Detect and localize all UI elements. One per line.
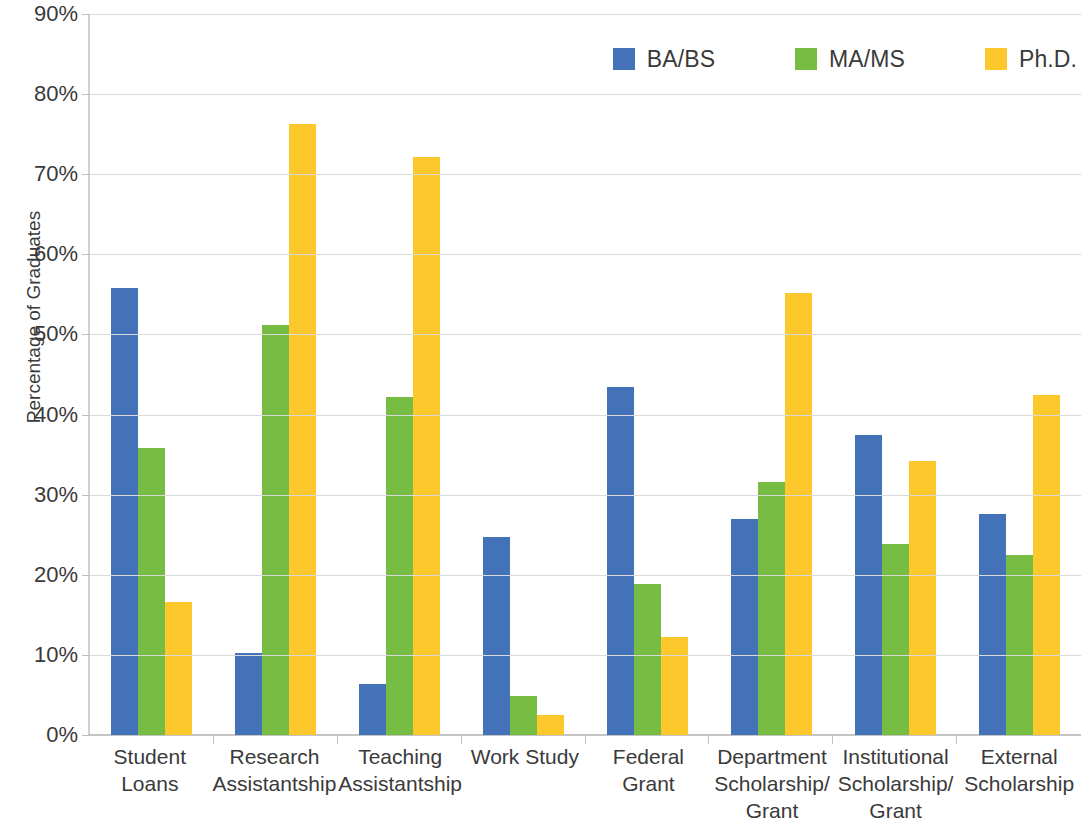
- x-axis-label: Teaching Assistantship: [337, 743, 463, 820]
- bar[interactable]: [537, 715, 564, 735]
- x-axis-label: Research Assistantship: [212, 743, 338, 820]
- bar[interactable]: [413, 157, 440, 735]
- plot-area: 0%10%20%30%40%50%60%70%80%90%: [88, 14, 1081, 735]
- bar[interactable]: [661, 637, 688, 735]
- x-axis-label: Institutional Scholarship/ Grant: [834, 743, 958, 820]
- x-axis-label: Work Study: [463, 743, 587, 820]
- gridline: [90, 334, 1081, 335]
- bar[interactable]: [882, 544, 909, 735]
- gridline: [90, 655, 1081, 656]
- bar[interactable]: [483, 537, 510, 735]
- bar-group: [586, 14, 710, 735]
- bar[interactable]: [386, 397, 413, 735]
- bar-group: [338, 14, 462, 735]
- bar[interactable]: [634, 584, 661, 735]
- bar-group: [90, 14, 214, 735]
- y-axis-tick-mark: [82, 334, 90, 335]
- y-axis-tick-label: 10%: [34, 642, 78, 668]
- bar[interactable]: [138, 448, 165, 735]
- gridline: [90, 14, 1081, 15]
- bar[interactable]: [909, 461, 936, 735]
- bar-group: [214, 14, 338, 735]
- bar-chart: BA/BSMA/MSPh.D. Percentage of Graduates …: [0, 0, 1085, 820]
- y-axis-tick-label: 20%: [34, 562, 78, 588]
- y-axis-tick-mark: [82, 14, 90, 15]
- y-axis-tick-mark: [82, 655, 90, 656]
- bar[interactable]: [1033, 395, 1060, 735]
- bar[interactable]: [758, 482, 785, 735]
- bar-group: [709, 14, 833, 735]
- x-axis-label: External Scholarship: [957, 743, 1081, 820]
- bar[interactable]: [607, 387, 634, 735]
- bar-group: [462, 14, 586, 735]
- gridline: [90, 174, 1081, 175]
- bar[interactable]: [510, 696, 537, 735]
- bar[interactable]: [289, 124, 316, 735]
- y-axis-tick-mark: [82, 575, 90, 576]
- y-axis-tick-label: 70%: [34, 161, 78, 187]
- gridline: [90, 495, 1081, 496]
- x-axis-label: Department Scholarship/ Grant: [710, 743, 834, 820]
- x-axis-labels: Student LoansResearch AssistantshipTeach…: [88, 743, 1081, 820]
- y-axis-tick-label: 80%: [34, 81, 78, 107]
- y-axis-tick-mark: [82, 94, 90, 95]
- y-axis-tick-label: 0%: [46, 722, 78, 748]
- bar[interactable]: [111, 288, 138, 735]
- bar[interactable]: [731, 519, 758, 735]
- y-axis-tick-label: 50%: [34, 321, 78, 347]
- bar[interactable]: [785, 293, 812, 735]
- bar-group: [833, 14, 957, 735]
- y-axis-tick-mark: [82, 495, 90, 496]
- y-axis-tick-label: 90%: [34, 1, 78, 27]
- bar[interactable]: [855, 435, 882, 735]
- gridline: [90, 415, 1081, 416]
- gridline: [90, 94, 1081, 95]
- y-axis-tick-mark: [82, 174, 90, 175]
- x-axis-label: Federal Grant: [587, 743, 711, 820]
- bar[interactable]: [359, 684, 386, 735]
- bar[interactable]: [262, 325, 289, 735]
- y-axis-tick-label: 40%: [34, 402, 78, 428]
- bar[interactable]: [1006, 555, 1033, 735]
- y-axis-tick-mark: [82, 415, 90, 416]
- y-axis-tick-label: 60%: [34, 241, 78, 267]
- bar[interactable]: [235, 653, 262, 735]
- bar-group: [957, 14, 1081, 735]
- bar[interactable]: [979, 514, 1006, 735]
- gridline: [90, 254, 1081, 255]
- bar-groups: [90, 14, 1081, 735]
- gridline: [90, 575, 1081, 576]
- x-axis-label: Student Loans: [88, 743, 212, 820]
- y-axis-tick-mark: [82, 254, 90, 255]
- bar[interactable]: [165, 602, 192, 735]
- y-axis-tick-mark: [82, 735, 90, 736]
- y-axis-tick-label: 30%: [34, 482, 78, 508]
